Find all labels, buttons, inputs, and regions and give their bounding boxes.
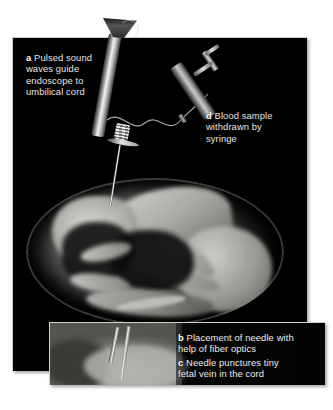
medical-illustration-figure: a Pulsed sound waves guide endoscope to …: [0, 0, 333, 410]
caption-c-marker: c: [178, 357, 183, 368]
caption-c: c Needle punctures tiny fetal vein in th…: [178, 357, 324, 380]
syringe-tip: [178, 113, 187, 123]
caption-d: d Blood sample withdrawn by syringe: [206, 110, 318, 144]
ultrasound-wave-arc-icon: [119, 20, 139, 38]
caption-b-marker: b: [178, 332, 184, 343]
caption-a-text: Pulsed sound waves guide endoscope to um…: [26, 52, 92, 97]
caption-a-marker: a: [26, 52, 31, 63]
caption-b-text: Placement of needle with help of fiber o…: [178, 332, 294, 354]
caption-d-marker: d: [206, 110, 212, 121]
endoscopic-photo: [50, 323, 182, 385]
caption-a: a Pulsed sound waves guide endoscope to …: [26, 52, 144, 98]
caption-c-text: Needle punctures tiny fetal vein in the …: [178, 357, 279, 379]
caption-b: b Placement of needle with help of fiber…: [178, 332, 324, 355]
caption-d-text: Blood sample withdrawn by syringe: [206, 110, 273, 144]
amniotic-sac: [26, 178, 284, 326]
tissue-highlight: [84, 345, 188, 385]
syringe-finger-flange: [193, 61, 213, 77]
